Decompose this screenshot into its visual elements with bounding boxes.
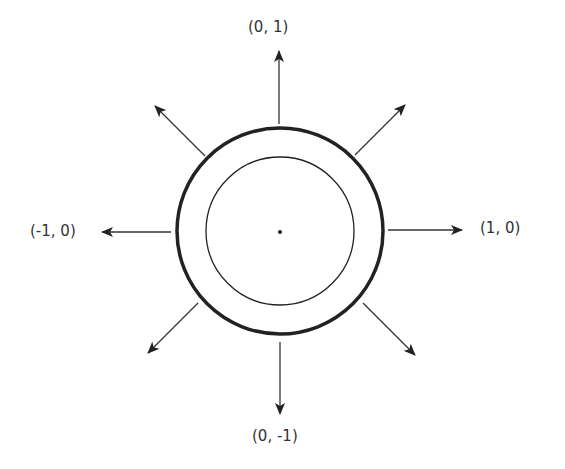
arrow-down-left <box>148 303 198 353</box>
arrow-down-right <box>363 303 415 355</box>
label-bottom: (0, -1) <box>252 427 298 445</box>
center-point <box>278 230 282 234</box>
arrow-up-left <box>155 106 205 156</box>
label-left: (-1, 0) <box>30 222 76 240</box>
arrow-up-right <box>355 105 405 155</box>
label-top: (0, 1) <box>248 18 288 36</box>
label-right: (1, 0) <box>480 219 520 237</box>
